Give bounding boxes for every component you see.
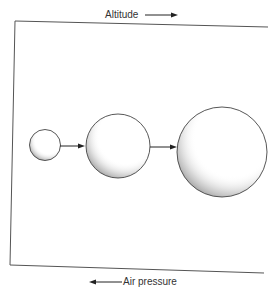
frame-top-line (15, 21, 268, 27)
frame-left-line (10, 21, 15, 265)
air-pressure-arrow-icon (89, 280, 122, 285)
altitude-label: Altitude (105, 9, 139, 20)
arrow-small-to-medium-icon (60, 144, 85, 149)
altitude-arrow-icon (145, 13, 178, 18)
balloon-small (30, 130, 61, 161)
arrow-medium-to-large-icon (150, 145, 177, 150)
frame-bottom-line (10, 265, 264, 273)
balloon-large (177, 107, 267, 197)
balloon-medium (86, 114, 150, 178)
diagram-canvas: Altitude Air pressure (0, 0, 277, 289)
air-pressure-label: Air pressure (123, 276, 177, 287)
